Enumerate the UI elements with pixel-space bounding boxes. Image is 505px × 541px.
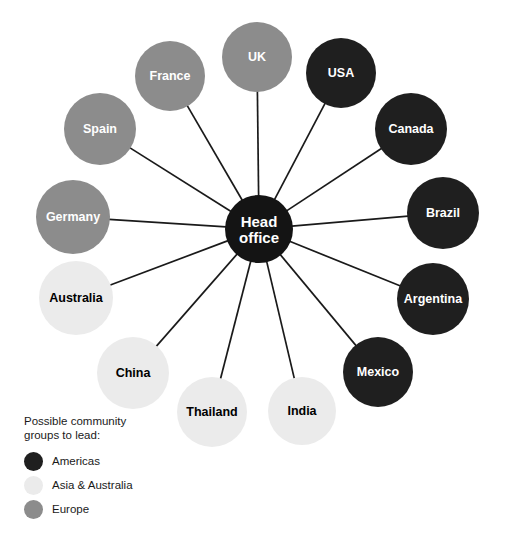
- legend-label-asia-australia: Asia & Australia: [52, 479, 133, 491]
- node-label-spain: Spain: [83, 122, 117, 136]
- node-germany[interactable]: Germany: [36, 180, 110, 254]
- node-label-china: China: [116, 366, 152, 380]
- hub-label-line2: office: [239, 229, 279, 246]
- node-mexico[interactable]: Mexico: [343, 337, 413, 407]
- node-brazil[interactable]: Brazil: [407, 177, 479, 249]
- legend-title: Possible community groups to lead:: [24, 414, 244, 442]
- spoke-spain: [130, 148, 231, 212]
- hub-node[interactable]: Headoffice: [225, 195, 293, 263]
- spoke-india: [267, 261, 295, 379]
- node-label-germany: Germany: [46, 210, 100, 224]
- legend-swatch-americas: [24, 452, 43, 471]
- spoke-uk: [257, 91, 258, 196]
- node-label-india: India: [287, 404, 317, 418]
- legend: Possible community groups to lead: Ameri…: [24, 414, 244, 521]
- spoke-thailand: [220, 261, 250, 379]
- spoke-mexico: [280, 254, 356, 345]
- node-label-usa: USA: [328, 66, 354, 80]
- spoke-usa: [274, 103, 325, 200]
- legend-swatch-asia-australia: [24, 476, 43, 495]
- legend-row-europe: Europe: [24, 497, 244, 521]
- legend-label-americas: Americas: [52, 455, 100, 467]
- node-label-mexico: Mexico: [357, 365, 400, 379]
- hub-label-line1: Head: [241, 213, 278, 230]
- node-label-argentina: Argentina: [404, 292, 463, 306]
- node-spain[interactable]: Spain: [64, 93, 136, 165]
- node-uk[interactable]: UK: [222, 22, 292, 92]
- spoke-brazil: [292, 216, 408, 226]
- spoke-canada: [287, 148, 382, 211]
- node-label-canada: Canada: [388, 122, 434, 136]
- spoke-china: [156, 254, 237, 347]
- spoke-argentina: [290, 241, 401, 286]
- hub-layer: Headoffice: [225, 195, 293, 263]
- node-usa[interactable]: USA: [306, 38, 376, 108]
- node-label-france: France: [150, 69, 191, 83]
- legend-row-americas: Americas: [24, 449, 244, 473]
- spoke-germany: [109, 219, 226, 227]
- node-australia[interactable]: Australia: [39, 261, 113, 335]
- legend-swatch-europe: [24, 500, 43, 519]
- node-argentina[interactable]: Argentina: [397, 263, 469, 335]
- node-label-australia: Australia: [49, 291, 104, 305]
- node-india[interactable]: India: [268, 377, 336, 445]
- spoke-australia: [110, 241, 228, 286]
- spoke-france: [187, 105, 242, 200]
- legend-items: AmericasAsia & AustraliaEurope: [24, 449, 244, 521]
- node-label-brazil: Brazil: [426, 206, 460, 220]
- legend-title-line2: groups to lead:: [24, 428, 244, 442]
- legend-title-line1: Possible community: [24, 414, 244, 428]
- legend-label-europe: Europe: [52, 503, 89, 515]
- node-china[interactable]: China: [97, 337, 169, 409]
- node-canada[interactable]: Canada: [375, 93, 447, 165]
- node-label-uk: UK: [248, 50, 266, 64]
- node-france[interactable]: France: [135, 41, 205, 111]
- network-diagram: UKUSACanadaBrazilArgentinaMexicoIndiaTha…: [0, 0, 505, 541]
- legend-row-asia-australia: Asia & Australia: [24, 473, 244, 497]
